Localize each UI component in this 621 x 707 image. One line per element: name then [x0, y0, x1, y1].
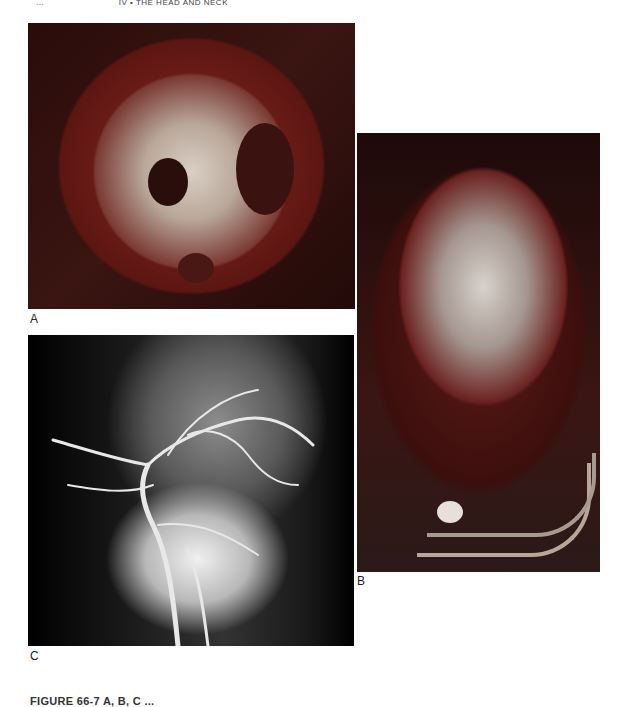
page-number: ...	[36, 0, 116, 6]
angiogram-vessels-illustration	[28, 335, 354, 646]
running-header: ... IV • THE HEAD AND NECK	[36, 0, 228, 8]
panel-label-b: B	[357, 575, 365, 587]
panel-label-a: A	[30, 313, 38, 325]
figure-panel-b-face-photo	[357, 133, 600, 572]
panel-label-c: C	[30, 650, 39, 662]
figure-panel-c-angiogram	[28, 335, 354, 646]
figure-caption: FIGURE 66-7 A, B, C ...	[30, 695, 154, 707]
figure-panel-a-skull-base-photo	[28, 23, 355, 309]
running-title: IV • THE HEAD AND NECK	[119, 0, 228, 7]
